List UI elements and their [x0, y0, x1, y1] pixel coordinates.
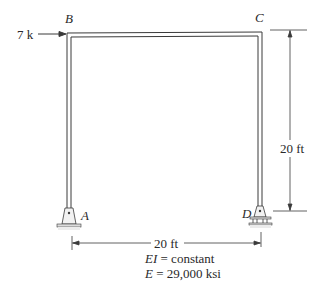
e-value: = 29,000 ksi: [156, 266, 221, 281]
node-label-a: A: [81, 209, 89, 222]
pin-support-icon: [57, 208, 81, 230]
height-dimension-label: 20 ft: [280, 142, 304, 155]
load-arrow-icon: [38, 32, 66, 37]
ei-symbol: EI: [145, 251, 157, 266]
frame-members: [67, 32, 262, 208]
roller-support-icon: [249, 206, 272, 228]
frame-diagram: B C A D 7 k 20 ft 20 ft EI = constant E …: [0, 0, 321, 286]
ei-property: EI = constant: [145, 252, 214, 265]
span-dimension-label: 20 ft: [154, 237, 178, 250]
node-label-b: B: [65, 12, 73, 25]
load-label: 7 k: [17, 28, 33, 41]
node-label-c: C: [255, 11, 264, 24]
ei-value: = constant: [161, 251, 215, 266]
node-label-d: D: [242, 207, 251, 220]
e-property: E = 29,000 ksi: [145, 267, 221, 280]
height-dimension: [270, 30, 307, 211]
e-symbol: E: [145, 266, 153, 281]
